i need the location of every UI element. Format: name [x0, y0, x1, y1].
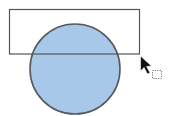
blue-circle[interactable]	[30, 24, 120, 114]
arrow-pointer-icon	[141, 56, 152, 74]
dotted-rectangle-icon	[153, 71, 162, 79]
drawing-canvas[interactable]	[0, 0, 171, 116]
